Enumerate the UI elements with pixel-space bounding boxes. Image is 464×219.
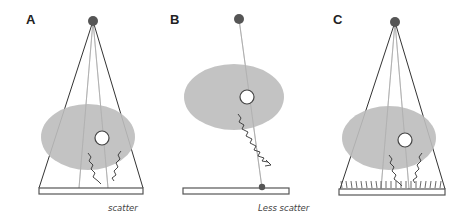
panel-a-caption: scatter: [108, 203, 138, 213]
patient-body: [41, 104, 135, 170]
panel-b: B Less scatter: [170, 12, 310, 213]
detector: [183, 188, 289, 194]
anti-scatter-grid: [341, 181, 441, 188]
xray-source-icon: [234, 14, 244, 24]
panel-c: C: [333, 12, 445, 195]
xray-source-icon: [390, 17, 400, 27]
patient-body: [342, 106, 436, 170]
scatter-diagram: A scatter B Less scatter C: [0, 0, 464, 219]
panel-a: A scatter: [26, 12, 143, 213]
patient-body: [184, 64, 284, 130]
panel-c-label: C: [333, 12, 343, 27]
panel-a-label: A: [26, 12, 36, 27]
panel-b-caption: Less scatter: [258, 203, 310, 213]
xray-source-icon: [88, 16, 98, 26]
detector: [39, 188, 143, 194]
scatter-arrowhead-icon: [265, 160, 271, 166]
panel-b-label: B: [170, 12, 179, 27]
lesion: [240, 90, 254, 104]
detector: [339, 189, 445, 195]
detection-point: [259, 184, 265, 190]
lesion: [398, 133, 412, 147]
lesion: [95, 131, 109, 145]
